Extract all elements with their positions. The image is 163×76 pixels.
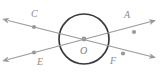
label-A: A	[124, 10, 130, 20]
label-O: O	[80, 46, 87, 56]
point-F	[121, 51, 125, 55]
label-C: C	[31, 9, 38, 19]
label-F: F	[110, 56, 116, 66]
point-C	[32, 25, 36, 29]
geometry-canvas	[0, 0, 163, 76]
label-E: E	[37, 57, 43, 67]
point-A	[132, 30, 136, 34]
point-E	[32, 50, 36, 54]
geometry-figure: C A E O F	[0, 0, 163, 76]
point-O	[82, 37, 87, 42]
